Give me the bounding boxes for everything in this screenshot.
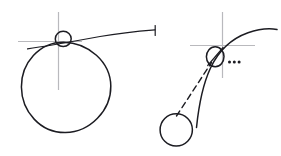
ellipsis-dot-3 bbox=[238, 61, 241, 64]
left-panel bbox=[18, 12, 155, 133]
ellipsis-dot-2 bbox=[233, 61, 236, 64]
right-lower-small-circle bbox=[160, 114, 192, 146]
right-dashed-chord bbox=[177, 63, 212, 117]
left-tangent-line bbox=[28, 30, 156, 49]
diagram-root bbox=[0, 0, 281, 156]
right-ellipsis-marker bbox=[228, 61, 241, 64]
left-tangent-point-circle bbox=[55, 31, 71, 46]
geometric-diagram-canvas bbox=[0, 0, 281, 156]
right-focus-ellipse-slash bbox=[208, 48, 223, 66]
ellipsis-dot-1 bbox=[228, 61, 231, 64]
left-large-circle bbox=[21, 42, 110, 132]
right-trajectory-curve bbox=[197, 29, 278, 128]
right-panel bbox=[160, 12, 277, 146]
